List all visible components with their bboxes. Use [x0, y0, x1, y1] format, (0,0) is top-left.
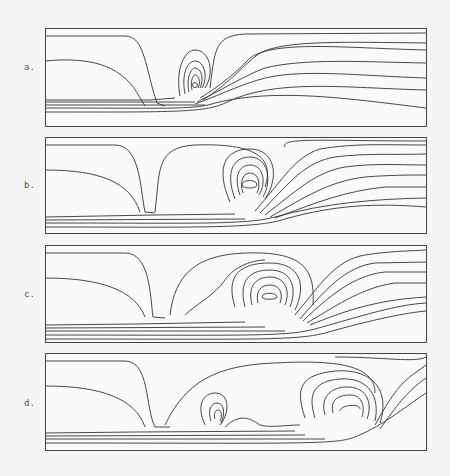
panel-b-label: b.	[24, 180, 35, 190]
panel-b-streamlines	[45, 137, 427, 234]
panel-d-streamlines	[45, 353, 427, 451]
panel-c-streamlines	[45, 245, 427, 343]
panel-a-streamlines	[45, 28, 427, 127]
panel-a-label: a.	[24, 62, 35, 72]
panel-c-label: c.	[24, 289, 35, 299]
panel-d-label: d.	[24, 398, 35, 408]
